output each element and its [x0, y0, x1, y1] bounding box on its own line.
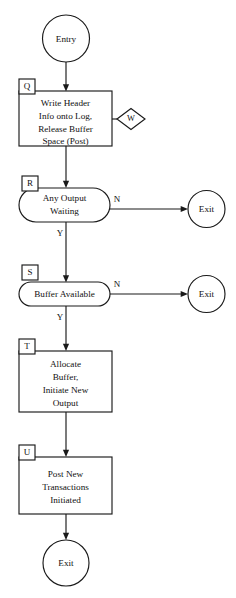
- tag-box-q: Q: [19, 79, 35, 94]
- tag-box-t: T: [19, 339, 35, 354]
- connector-t-to-u: [63, 412, 69, 457]
- decision-r-line-1: Any Output: [43, 193, 87, 203]
- terminator-exit-final[interactable]: Exit: [43, 540, 89, 586]
- process-box-q[interactable]: Write Header Info onto Log, Release Buff…: [19, 91, 112, 146]
- tag-box-u: U: [19, 445, 35, 460]
- tag-box-r: R: [22, 176, 38, 191]
- connector-u-to-exit: [63, 514, 69, 540]
- terminator-exit-s-label: Exit: [199, 289, 215, 299]
- decision-r-line-2: Waiting: [50, 206, 79, 216]
- process-u-line-2: Transactions: [42, 482, 89, 492]
- connector-r-no-to-exit: [110, 206, 188, 212]
- terminator-exit-r-label: Exit: [199, 204, 215, 214]
- process-t-line-4: Output: [53, 398, 79, 408]
- branch-label-s-no: N: [114, 279, 121, 289]
- process-t-line-3: Initiate New: [43, 385, 89, 395]
- tag-box-s: S: [22, 265, 38, 280]
- terminator-exit-final-label: Exit: [58, 558, 74, 568]
- connector-s-yes-to-t: [63, 306, 69, 351]
- terminator-exit-s[interactable]: Exit: [188, 276, 225, 313]
- decision-node-r[interactable]: Any Output Waiting: [19, 188, 110, 222]
- process-q-line-1: Write Header: [41, 98, 90, 108]
- terminator-exit-r[interactable]: Exit: [188, 191, 225, 228]
- offpage-connector-w[interactable]: W: [117, 109, 145, 130]
- connector-entry-to-q: [63, 62, 69, 92]
- decision-s-line-1: Buffer Available: [34, 289, 95, 299]
- flowchart-canvas: Entry Write Header Info onto Log, Releas…: [0, 0, 236, 598]
- process-q-line-4: Space (Post): [42, 136, 88, 146]
- process-u-line-1: Post New: [48, 469, 84, 479]
- branch-label-s-yes: Y: [57, 312, 64, 322]
- branch-label-r-yes: Y: [57, 228, 64, 238]
- process-u-line-3: Initiated: [50, 495, 81, 505]
- terminator-entry[interactable]: Entry: [43, 15, 90, 62]
- decision-node-s[interactable]: Buffer Available: [19, 282, 110, 306]
- tag-t-label: T: [24, 341, 30, 351]
- tag-q-label: Q: [24, 81, 31, 91]
- process-q-line-3: Release Buffer: [38, 124, 93, 134]
- flowchart-svg: Entry Write Header Info onto Log, Releas…: [0, 0, 236, 598]
- tag-u-label: U: [24, 447, 31, 457]
- process-t-line-1: Allocate: [50, 359, 81, 369]
- connector-q-to-r: [63, 146, 69, 188]
- process-t-line-2: Buffer,: [53, 372, 79, 382]
- connector-r-yes-to-s: [63, 222, 69, 283]
- tag-s-label: S: [27, 267, 32, 277]
- process-q-line-2: Info onto Log,: [39, 111, 92, 121]
- tag-r-label: R: [27, 178, 33, 188]
- process-box-t[interactable]: Allocate Buffer, Initiate New Output: [19, 351, 112, 412]
- connector-s-no-to-exit: [110, 291, 188, 297]
- process-box-u[interactable]: Post New Transactions Initiated: [19, 457, 112, 514]
- branch-label-r-no: N: [114, 194, 121, 204]
- connector-w-label: W: [127, 114, 135, 123]
- terminator-entry-label: Entry: [56, 34, 77, 44]
